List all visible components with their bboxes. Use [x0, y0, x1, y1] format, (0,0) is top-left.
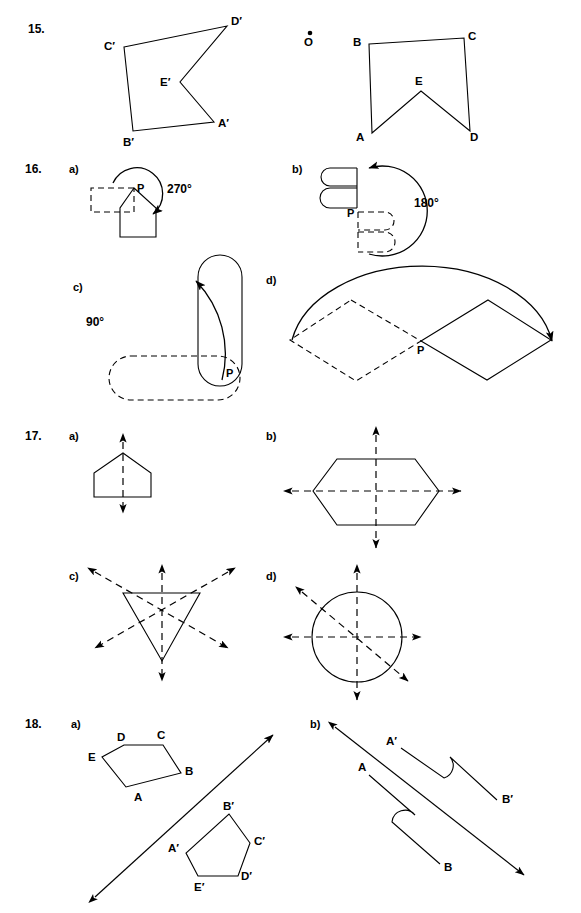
- figure-18b: b) A′ B′ A B: [310, 718, 524, 875]
- part-label-18a: a): [71, 718, 81, 730]
- vertex-label-a-prime: A′: [218, 117, 229, 129]
- problem-16-number: 16.: [25, 162, 42, 176]
- shape-16d-preimage: [290, 300, 421, 381]
- vertex-label-d: D: [470, 131, 478, 143]
- vertex-label-18a-dp: D′: [241, 870, 252, 882]
- figure-16d: d) P: [266, 266, 552, 381]
- center-label-p-16b: P: [347, 207, 354, 219]
- center-point-o-label: O: [304, 36, 313, 48]
- part-label-17d: d): [266, 570, 277, 582]
- figure-16c: c) P 90°: [73, 255, 242, 400]
- part-label-17a: a): [69, 430, 79, 442]
- figure-15-right: O B C E A D: [304, 30, 478, 143]
- polygon-preimage-18a: [102, 745, 181, 787]
- vertex-label-18a-ap: A′: [168, 842, 179, 854]
- rotation-arc-90: [196, 281, 225, 380]
- figure-17d: d): [266, 570, 421, 700]
- vertex-label-a: A: [356, 131, 364, 143]
- vertex-label-18b-bp: B′: [502, 793, 513, 805]
- mirror-line-18b: [335, 727, 524, 875]
- center-point-o-dot: [308, 31, 313, 36]
- vertex-label-c-prime: C′: [104, 40, 115, 52]
- shape-16d-image: [421, 300, 551, 380]
- curve-preimage-18b: [369, 775, 440, 864]
- part-label-17c: c): [69, 570, 79, 582]
- vertex-label-b: B: [353, 36, 361, 48]
- vertex-label-18b-b: B: [444, 861, 452, 873]
- angle-label-90: 90°: [86, 315, 104, 329]
- center-label-p-16a: P: [137, 182, 144, 194]
- part-label-16b: b): [292, 163, 303, 175]
- problem-17-group: 17. a) b) c): [25, 429, 461, 700]
- vertex-label-18a-d: D: [117, 731, 125, 743]
- vertex-label-c: C: [468, 30, 476, 42]
- problem-18-number: 18.: [25, 717, 42, 731]
- figure-17a: a): [69, 430, 151, 513]
- problem-18-group: 18. a) D C B E A B′ C′ A′ D′ E′: [25, 717, 524, 897]
- vertex-label-18a-ep: E′: [194, 881, 205, 893]
- part-label-16a: a): [69, 163, 79, 175]
- vertex-label-18a-b: B: [185, 765, 193, 777]
- problem-16-group: 16. a) P 270° b): [25, 162, 552, 400]
- center-label-p-16d: P: [417, 344, 424, 356]
- vertex-label-18b-ap: A′: [386, 735, 397, 747]
- polygon-image-18a: [186, 814, 250, 876]
- angle-label-180: 180°: [414, 196, 439, 210]
- figure-16b: b) P 180°: [292, 163, 439, 256]
- vertex-label-18a-cp: C′: [254, 835, 265, 847]
- vertex-label-d-prime: D′: [231, 15, 242, 27]
- angle-label-270: 270°: [167, 182, 192, 196]
- vertex-label-b-prime: B′: [123, 136, 134, 148]
- vertex-label-18a-bp: B′: [223, 800, 234, 812]
- vertex-label-e-prime: E′: [160, 76, 171, 88]
- shape-16b-lobe-top: [321, 168, 357, 186]
- shape-16a-preimage: [91, 188, 134, 212]
- center-label-p-16c: P: [226, 367, 233, 379]
- shape-16b-lobe-bottom: [320, 188, 357, 208]
- figure-16a: a) P 270°: [69, 163, 192, 237]
- shape-16c-preimage: [109, 356, 240, 400]
- vertex-label-e: E: [415, 75, 423, 87]
- rotation-arc-180: [369, 166, 427, 256]
- vertex-label-18a-e: E: [88, 751, 96, 763]
- vertex-label-18b-a: A: [358, 761, 366, 773]
- polygon-image-15: [124, 26, 227, 131]
- figure-17b: b): [266, 430, 461, 548]
- vertex-label-18a-a: A: [134, 791, 142, 803]
- problem-15-group: 15. C′ D′ E′ A′ B′ O B C E A D: [28, 15, 478, 148]
- rotation-arc-16d: [292, 266, 552, 341]
- part-label-18b: b): [310, 718, 321, 730]
- part-label-16d: d): [266, 274, 277, 286]
- part-label-16c: c): [73, 281, 83, 293]
- figure-17c: c): [69, 570, 228, 681]
- shape-16b-lobe-top-dashed: [358, 212, 394, 230]
- figure-18a: a) D C B E A B′ C′ A′ D′ E′: [71, 718, 273, 897]
- part-label-17b: b): [266, 430, 277, 442]
- shape-17b-hexagon: [313, 459, 439, 525]
- problem-15-number: 15.: [28, 22, 45, 36]
- problem-17-number: 17.: [25, 429, 42, 443]
- figure-15-left: C′ D′ E′ A′ B′: [104, 15, 242, 148]
- curve-image-18b: [401, 748, 497, 800]
- vertex-label-18a-c: C: [157, 729, 165, 741]
- shape-16b-lobe-bottom-dashed: [358, 232, 395, 252]
- textbook-answer-page: 15. C′ D′ E′ A′ B′ O B C E A D: [0, 0, 581, 913]
